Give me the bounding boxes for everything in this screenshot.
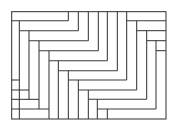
herringbone-diagram [0,0,173,121]
herringbone-pattern [0,0,173,121]
